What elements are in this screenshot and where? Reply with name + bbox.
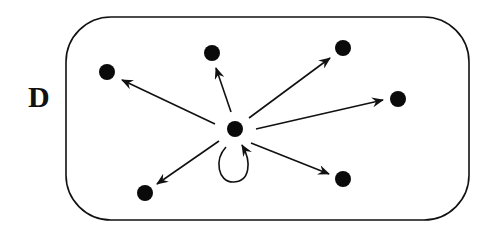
nodes: [99, 40, 406, 201]
edge-to-n1: [122, 80, 215, 124]
node-n3: [335, 40, 351, 56]
node-n2: [204, 45, 220, 61]
node-n5: [137, 185, 153, 201]
node-n6: [335, 171, 351, 187]
edge-to-n5: [157, 141, 219, 184]
edges: [122, 58, 383, 184]
self-loop-edge: [219, 145, 248, 182]
edge-to-n2: [216, 68, 231, 112]
diagram-canvas: [0, 0, 492, 231]
domain-boundary: [66, 17, 469, 220]
edge-to-n4: [256, 100, 383, 129]
node-n1: [99, 64, 115, 80]
node-n4: [390, 91, 406, 107]
edge-to-n6: [251, 143, 329, 174]
edge-to-n3: [249, 58, 330, 118]
center-node: [227, 121, 243, 137]
